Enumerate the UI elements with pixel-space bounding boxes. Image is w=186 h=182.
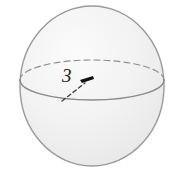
sphere-body	[20, 6, 164, 166]
sphere-diagram-canvas	[0, 0, 186, 182]
radius-label: 3	[62, 66, 72, 85]
sphere-figure: 3	[0, 0, 186, 182]
